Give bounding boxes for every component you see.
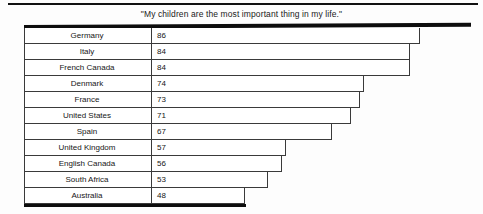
row-label: South Africa <box>24 172 150 188</box>
row-value: 74 <box>157 76 166 92</box>
row-value: 48 <box>157 188 166 204</box>
chart-row: French Canada84 <box>24 60 474 76</box>
row-label: Italy <box>24 44 150 60</box>
column-divider <box>151 92 152 108</box>
column-divider <box>151 124 152 140</box>
row-label: Germany <box>24 28 150 44</box>
row-label: United Kingdom <box>24 140 150 156</box>
row-label: French Canada <box>24 60 150 76</box>
row-value: 67 <box>157 124 166 140</box>
chart-row: Italy84 <box>24 44 474 60</box>
chart-page: "My children are the most important thin… <box>0 0 483 214</box>
column-divider <box>151 156 152 172</box>
row-value: 57 <box>157 140 166 156</box>
chart-rows: Germany86Italy84French Canada84Denmark74… <box>24 28 474 204</box>
column-divider <box>151 60 152 76</box>
column-divider <box>151 172 152 188</box>
chart-row: Australia48 <box>24 188 474 204</box>
chart-row: Denmark74 <box>24 76 474 92</box>
chart-row: United States71 <box>24 108 474 124</box>
row-value: 71 <box>157 108 166 124</box>
column-divider <box>151 188 152 204</box>
row-label: Australia <box>24 188 150 204</box>
row-value: 86 <box>157 28 166 44</box>
column-divider <box>151 140 152 156</box>
column-divider <box>151 44 152 60</box>
row-label: Spain <box>24 124 150 140</box>
chart-row: Spain67 <box>24 124 474 140</box>
row-label: United States <box>24 108 150 124</box>
table-bottom-border <box>24 204 246 207</box>
bar-chart-table: Germany86Italy84French Canada84Denmark74… <box>24 25 474 207</box>
chart-row: Germany86 <box>24 28 474 44</box>
top-rule <box>8 3 478 5</box>
row-value: 84 <box>157 60 166 76</box>
row-value: 56 <box>157 156 166 172</box>
chart-row: France73 <box>24 92 474 108</box>
row-label: English Canada <box>24 156 150 172</box>
column-divider <box>151 28 152 44</box>
chart-row: South Africa53 <box>24 172 474 188</box>
chart-row: United Kingdom57 <box>24 140 474 156</box>
row-label: Denmark <box>24 76 150 92</box>
column-divider <box>151 108 152 124</box>
chart-title: "My children are the most important thin… <box>0 9 483 19</box>
chart-row: English Canada56 <box>24 156 474 172</box>
row-label: France <box>24 92 150 108</box>
row-value: 84 <box>157 44 166 60</box>
row-value: 73 <box>157 92 166 108</box>
column-divider <box>151 76 152 92</box>
row-value: 53 <box>157 172 166 188</box>
